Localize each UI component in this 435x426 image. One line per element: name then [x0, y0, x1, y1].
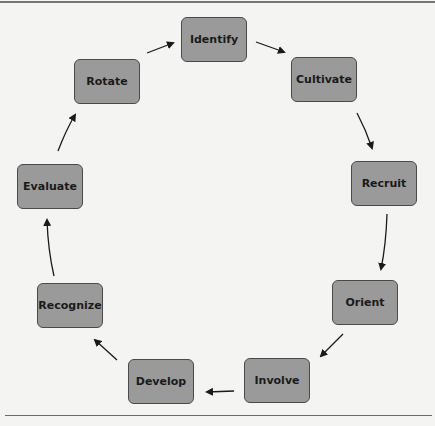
node-cultivate: Cultivate [291, 57, 357, 102]
node-label: Cultivate [296, 73, 352, 86]
bottom-rule [5, 415, 432, 416]
node-label: Identify [190, 33, 238, 46]
node-orient: Orient [332, 280, 398, 325]
node-label: Recognize [38, 299, 101, 312]
arrow-rotate-to-identify [147, 43, 173, 53]
node-label: Involve [254, 374, 299, 387]
node-recognize: Recognize [37, 283, 103, 328]
node-develop: Develop [128, 359, 194, 404]
node-label: Develop [136, 375, 186, 388]
node-label: Recruit [362, 177, 407, 190]
arrow-orient-to-involve [321, 334, 343, 356]
arrow-involve-to-develop [207, 391, 234, 392]
arrow-evaluate-to-rotate [58, 115, 75, 151]
arrow-recognize-to-evaluate [47, 220, 54, 276]
node-rotate: Rotate [74, 59, 140, 104]
arrow-develop-to-recognize [95, 340, 117, 360]
arrow-recruit-to-orient [381, 214, 387, 269]
node-label: Orient [345, 296, 384, 309]
cycle-arrows [0, 0, 435, 426]
node-involve: Involve [244, 358, 310, 403]
node-identify: Identify [181, 17, 247, 62]
arrow-cultivate-to-recruit [357, 113, 372, 148]
node-label: Rotate [86, 75, 127, 88]
node-evaluate: Evaluate [17, 164, 83, 209]
arrow-identify-to-cultivate [256, 42, 284, 52]
node-label: Evaluate [23, 180, 77, 193]
node-recruit: Recruit [351, 161, 417, 206]
